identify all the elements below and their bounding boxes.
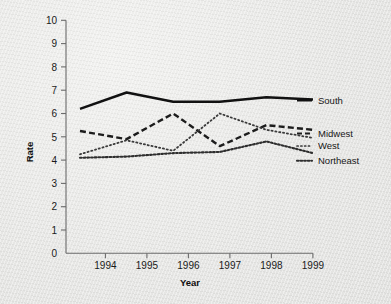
x-tick-1994: 1994	[94, 253, 117, 271]
series-labels-group: South Midwest West Northeast	[297, 95, 360, 167]
x-tick-1997: 1997	[219, 253, 242, 271]
series-layer	[80, 93, 313, 158]
series-line-west	[80, 114, 313, 155]
series-label-northeast: Northeast	[318, 155, 360, 166]
y-tick-label: 6	[51, 108, 57, 119]
series-line-midwest	[80, 114, 313, 147]
chart-canvas: 10 9 8 7 6 5 4	[0, 0, 391, 304]
line-chart: 10 9 8 7 6 5 4	[0, 0, 391, 304]
y-tick-2: 2	[51, 201, 66, 212]
y-tick-label: 1	[51, 225, 57, 236]
y-tick-label: 8	[51, 62, 57, 73]
x-tick-1999: 1999	[302, 253, 325, 271]
y-tick-label: 2	[51, 201, 57, 212]
y-tick-4: 4	[51, 155, 66, 166]
series-line-south	[80, 93, 313, 109]
y-tick-label: 5	[51, 132, 57, 143]
y-tick-label: 10	[46, 15, 58, 26]
x-tick-1998: 1998	[260, 253, 283, 271]
y-tick-label: 3	[51, 178, 57, 189]
x-tick-1996: 1996	[177, 253, 200, 271]
y-tick-label: 9	[51, 38, 57, 49]
y-tick-1: 1	[51, 225, 66, 236]
x-axis-title: Year	[180, 277, 200, 288]
x-tick-label: 1996	[177, 260, 200, 271]
y-tick-label: 4	[51, 155, 57, 166]
y-tick-label: 0	[51, 248, 57, 259]
y-axis-title: Rate	[24, 142, 35, 163]
x-tick-label: 1998	[260, 260, 283, 271]
y-tick-8: 8	[51, 62, 66, 73]
x-axis-group: 1994 1995 1996 1997 1998 1999	[66, 253, 324, 271]
y-tick-5: 5	[51, 132, 66, 143]
y-tick-0: 0	[51, 248, 57, 259]
y-axis-group: 10 9 8 7 6 5 4	[46, 15, 66, 259]
x-tick-label: 1997	[219, 260, 242, 271]
series-label-midwest: Midwest	[318, 128, 353, 139]
y-tick-6: 6	[51, 108, 66, 119]
x-tick-label: 1995	[136, 260, 159, 271]
y-tick-7: 7	[51, 85, 66, 96]
x-tick-1995: 1995	[136, 253, 159, 271]
series-label-south: South	[318, 95, 343, 106]
x-tick-label: 1994	[94, 260, 117, 271]
y-tick-9: 9	[51, 38, 66, 49]
y-tick-10: 10	[46, 15, 66, 26]
y-tick-label: 7	[51, 85, 57, 96]
x-tick-label: 1999	[302, 260, 325, 271]
y-tick-3: 3	[51, 178, 66, 189]
series-label-west: West	[318, 140, 340, 151]
